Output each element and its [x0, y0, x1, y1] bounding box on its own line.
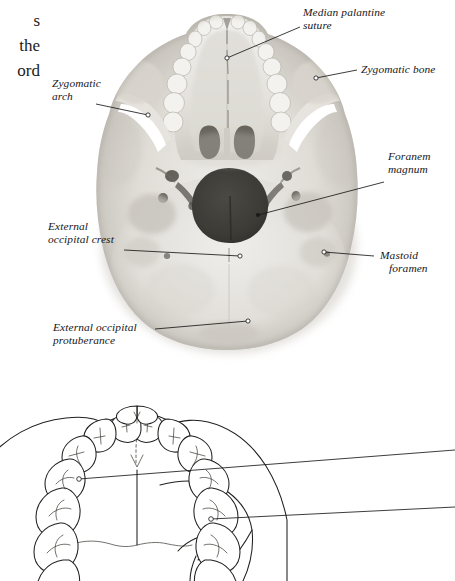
label-line: protuberance: [53, 334, 115, 346]
label-line: magnum: [388, 163, 428, 175]
foramen-magnum: [192, 168, 268, 243]
anchor-median-palatine-suture: [225, 56, 229, 60]
drawing-leader-lower: [211, 507, 455, 519]
anchor-external-occipital-crest: [238, 254, 242, 258]
label-zygomatic-arch: Zygomatic arch: [52, 77, 101, 104]
label-foranem-magnum: Foranem magnum: [388, 150, 430, 177]
anchor-mastoid-foramen: [322, 250, 326, 254]
drawing-anchor-lower: [209, 517, 214, 522]
anchor-zygomatic-arch: [146, 113, 150, 117]
label-line: Median palantine: [303, 6, 385, 18]
teeth-arch-left: [34, 413, 141, 581]
label-external-occipital-crest: External occipital crest: [48, 220, 114, 247]
label-line: Zygomatic: [52, 77, 101, 89]
teeth-arch-right: [133, 413, 240, 581]
label-line: Foranem: [388, 150, 430, 162]
label-median-palatine-suture: Median palantine suture: [303, 6, 385, 33]
hard-palate-line-drawing: [0, 406, 455, 581]
label-line: Zygomatic bone: [361, 63, 435, 75]
label-line: foramen: [380, 262, 428, 275]
label-line: suture: [303, 19, 332, 31]
label-external-occipital-protuberance: External occipital protuberance: [53, 321, 137, 348]
drawing-anchor-upper: [77, 477, 82, 482]
label-line: Mastoid: [380, 249, 418, 261]
external-occipital-protuberance-bump: [199, 322, 259, 344]
label-line: arch: [52, 90, 73, 102]
label-line: External: [48, 220, 88, 232]
figure-page: s the ord: [0, 0, 455, 581]
anchor-external-occipital-protuberance: [246, 319, 250, 323]
anchor-zygomatic-bone: [314, 76, 318, 80]
label-zygomatic-bone: Zygomatic bone: [361, 63, 435, 76]
anchor-foranem-magnum: [256, 213, 260, 217]
incisors: [116, 406, 157, 424]
label-line: External occipital: [53, 321, 137, 333]
label-line: occipital crest: [48, 233, 114, 245]
label-mastoid-foramen: Mastoid foramen: [380, 249, 428, 276]
drawing-leader-lines: [77, 450, 455, 521]
